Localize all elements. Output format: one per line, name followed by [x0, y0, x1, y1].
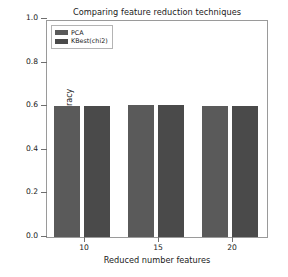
y-tick-label: 0.0 [26, 231, 38, 240]
x-tick-label: 20 [227, 243, 237, 252]
y-tick-label: 0.4 [26, 144, 38, 153]
bar [202, 106, 228, 237]
legend-swatch [55, 30, 68, 35]
y-tick-label: 0.8 [26, 57, 38, 66]
bars-layer [47, 21, 267, 237]
legend-item: KBest(chi2) [55, 37, 108, 45]
bar [84, 106, 110, 237]
y-tick: 1.0 [41, 18, 47, 19]
x-tick [158, 237, 159, 242]
bar [158, 105, 184, 237]
y-tick-label: 1.0 [26, 13, 38, 22]
y-tick-label: 0.2 [26, 187, 38, 196]
bar [232, 106, 258, 237]
bar [128, 105, 154, 237]
legend-label: KBest(chi2) [71, 37, 108, 45]
plot-area: Classification accuracy 0.00.20.40.60.81… [46, 20, 268, 238]
legend-label: PCA [71, 29, 84, 37]
chart-figure: Comparing feature reduction techniques C… [0, 0, 288, 277]
x-tick-label: 10 [79, 243, 89, 252]
x-tick [232, 237, 233, 242]
legend-item: PCA [55, 29, 108, 37]
chart-legend: PCAKBest(chi2) [51, 25, 113, 49]
legend-swatch [55, 39, 68, 44]
y-tick-label: 0.6 [26, 100, 38, 109]
x-axis-label: Reduced number features [46, 255, 268, 265]
chart-title: Comparing feature reduction techniques [46, 7, 268, 17]
x-tick-label: 15 [153, 243, 163, 252]
x-tick [84, 237, 85, 242]
bar [54, 106, 80, 237]
